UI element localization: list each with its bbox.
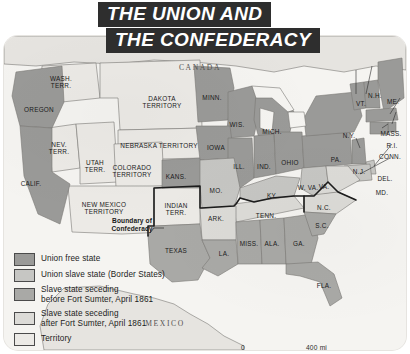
region-nev-terr xyxy=(48,124,80,172)
region-ind xyxy=(254,134,276,178)
map-page: .st { stroke:#7a7975; stroke-width:0.6; … xyxy=(0,0,410,354)
scale-row-miles: 0 400 mi xyxy=(241,344,327,350)
scale-bar: 0 400 mi 0 600 km xyxy=(241,344,327,350)
region-colorado-terr xyxy=(114,142,164,188)
scale-zero-top: 0 xyxy=(241,344,245,350)
legend-label-union-free-state: Union free state xyxy=(41,254,100,264)
map-legend: Union free stateUnion slave state (Borde… xyxy=(14,252,200,348)
region-conn xyxy=(370,122,388,134)
region-nh xyxy=(364,80,380,108)
region-kans xyxy=(162,158,204,188)
region-ark xyxy=(200,206,236,240)
legend-label-union-slave-state: Union slave state (Border States) xyxy=(41,270,165,280)
legend-row-territory: Territory xyxy=(14,332,200,346)
legend-swatch-territory xyxy=(14,333,35,346)
legend-label-line-1: Territory xyxy=(41,334,71,343)
map-title-banner: THE UNION AND THE CONFEDERACY xyxy=(94,2,410,53)
legend-swatch-seceded-after-sumter xyxy=(14,312,35,325)
legend-label-line-2: before Fort Sumter, April 1861 xyxy=(41,295,153,305)
region-mo xyxy=(200,158,240,208)
legend-label-line-2: after Fort Sumter, April 1861 xyxy=(41,319,146,329)
legend-label-seceded-after-sumter: Slave state secedingafter Fort Sumter, A… xyxy=(41,309,146,328)
region-oregon xyxy=(12,66,64,128)
legend-row-union-slave-state: Union slave state (Border States) xyxy=(14,268,200,282)
legend-label-line-1: Union slave state (Border States) xyxy=(41,270,165,279)
legend-label-line-1: Slave state seceding xyxy=(41,285,119,294)
legend-label-seceded-before-sumter: Slave state secedingbefore Fort Sumter, … xyxy=(41,285,153,304)
scale-miles-label: 400 mi xyxy=(306,344,327,350)
legend-label-line-1: Slave state seceding xyxy=(41,309,119,318)
legend-row-seceded-after-sumter: Slave state secedingafter Fort Sumter, A… xyxy=(14,308,200,329)
region-ohio xyxy=(274,132,304,174)
legend-row-union-free-state: Union free state xyxy=(14,252,200,266)
legend-swatch-union-free-state xyxy=(14,253,35,266)
legend-swatch-union-slave-state xyxy=(14,269,35,282)
legend-label-territory: Territory xyxy=(41,334,71,344)
region-pa xyxy=(302,132,352,168)
map-title-line-2: THE CONFEDERACY xyxy=(106,28,320,53)
region-ala xyxy=(260,218,286,264)
region-miss xyxy=(236,220,262,264)
legend-row-seceded-before-sumter: Slave state secedingbefore Fort Sumter, … xyxy=(14,284,200,305)
legend-label-line-1: Union free state xyxy=(41,254,100,263)
region-nj xyxy=(352,138,366,164)
map-plate: .st { stroke:#7a7975; stroke-width:0.6; … xyxy=(4,36,406,350)
map-title-line-1: THE UNION AND xyxy=(98,2,271,27)
legend-swatch-seceded-before-sumter xyxy=(14,288,35,301)
region-utah-terr xyxy=(76,122,118,184)
region-indian-terr xyxy=(154,186,200,226)
